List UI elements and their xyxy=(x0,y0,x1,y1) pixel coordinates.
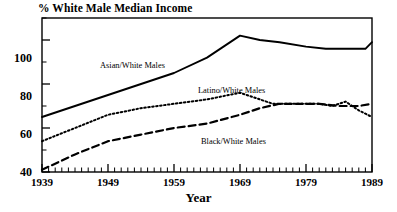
plot-area xyxy=(0,0,397,212)
series-line-black-white-males xyxy=(42,104,372,170)
chart-figure: % White Male Median Income 100 80 60 40 … xyxy=(0,0,397,212)
plot-frame xyxy=(42,18,372,172)
